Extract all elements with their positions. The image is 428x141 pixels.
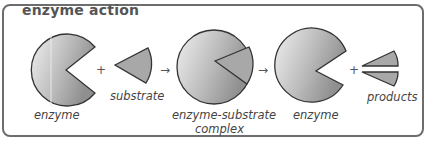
substrate-label: substrate (110, 89, 164, 103)
complex-label-line1: enzyme-substrate (172, 108, 276, 122)
substrate-shape (115, 48, 152, 83)
plus-sign: + (349, 63, 359, 77)
complex-label-line2: complex (195, 122, 244, 136)
plus-sign: + (96, 63, 106, 77)
arrow-right-icon: → (160, 63, 170, 77)
enzyme-label: enzyme (293, 108, 338, 122)
arrow-right-icon: → (258, 63, 268, 77)
enzyme-shape (31, 34, 95, 106)
products-label: products (367, 90, 417, 104)
products-shape (362, 51, 398, 86)
enzyme-label: enzyme (34, 108, 79, 122)
enzyme-substrate-complex-shape (177, 30, 253, 104)
enzyme-shape (275, 28, 346, 102)
